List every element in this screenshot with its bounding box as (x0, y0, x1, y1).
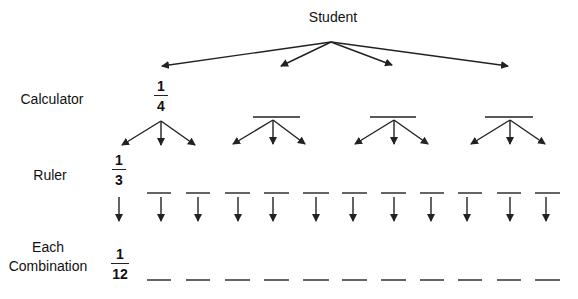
fraction-denominator: 12 (112, 267, 128, 281)
ruler-probability: 1 3 (112, 153, 126, 187)
fraction-numerator: 1 (116, 247, 124, 261)
fraction-denominator: 4 (157, 99, 165, 113)
combination-probability: 1 12 (111, 247, 129, 281)
fraction-bar (111, 263, 129, 264)
fraction-numerator: 1 (115, 153, 123, 167)
root-branches (162, 42, 508, 66)
calculator-label: Calculator (20, 92, 83, 106)
ruler-label: Ruler (33, 168, 66, 182)
each-label: Each (32, 240, 64, 254)
fraction-bar (154, 95, 168, 96)
fraction-bar (112, 169, 126, 170)
calculator-probability: 1 4 (154, 79, 168, 113)
ruler-arrows (119, 197, 546, 221)
combination-label: Combination (9, 259, 88, 273)
fraction-numerator: 1 (157, 79, 165, 93)
calculator-branches (122, 120, 545, 145)
probability-tree-diagram: Student Calculator Ruler Each Combinatio… (0, 0, 578, 299)
tree-lines (0, 0, 578, 299)
fraction-denominator: 3 (115, 173, 123, 187)
root-label: Student (309, 10, 357, 24)
